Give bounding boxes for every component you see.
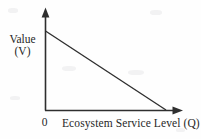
y-axis-arrowhead	[42, 8, 50, 18]
data-series-group	[46, 31, 167, 110]
ecosystem-value-figure: Value (V) 0 Ecosystem Service Level (Q)	[0, 0, 201, 139]
y-axis-label-line-2: (V)	[2, 45, 43, 57]
value-curve-line	[46, 31, 167, 110]
axes-group	[42, 8, 183, 115]
x-axis-arrowhead	[173, 106, 184, 114]
origin-tick-label: 0	[38, 116, 51, 128]
y-axis-label: Value (V)	[2, 33, 43, 57]
x-axis-label: Ecosystem Service Level (Q)	[62, 117, 200, 129]
y-axis-label-line-1: Value	[2, 33, 43, 45]
